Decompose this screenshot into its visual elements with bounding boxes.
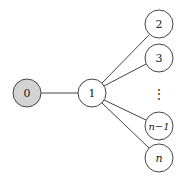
- node-n-label: n: [145, 144, 173, 172]
- ellipsis-vertical: ⋮: [153, 88, 165, 100]
- node-0-label: 0: [13, 79, 41, 107]
- node-1-label: 1: [78, 79, 106, 107]
- node-3-label: 3: [145, 44, 173, 72]
- edge-1-2: [102, 35, 149, 83]
- node-n-minus-1-label: n−1: [145, 112, 173, 140]
- edge-1-n-minus-1: [104, 100, 146, 120]
- node-2-label: 2: [145, 10, 173, 38]
- tree-diagram: 0 1 2 3 n−1 n ⋮: [0, 0, 187, 184]
